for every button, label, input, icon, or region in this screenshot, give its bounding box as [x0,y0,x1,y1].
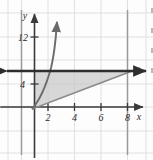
coordinate-plane: 2 4 6 8 4 12 x y [0,0,153,160]
x-tick-label-6: 6 [99,112,104,123]
x-tick-label-4: 4 [72,112,77,123]
x-tick-label-8: 8 [125,112,130,123]
y-tick-label-4: 4 [20,79,25,90]
x-tick-label-2: 2 [46,112,51,123]
page-edge-bleed [145,0,153,80]
y-axis-label: y [22,10,28,21]
x-axis-label: x [136,111,142,122]
y-tick-label-12: 12 [18,32,28,43]
graph-figure: 2 4 6 8 4 12 x y [0,0,153,160]
